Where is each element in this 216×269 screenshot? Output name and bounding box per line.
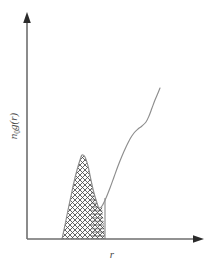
figure-root: n0g(r) r [0,0,216,269]
y-axis-arrowhead [23,12,31,23]
axes [23,12,204,243]
y-axis-label-tail: g(r) [7,112,20,129]
x-axis-label: r [110,248,115,260]
y-axis-label-group: n0g(r) [7,112,22,139]
y-axis-label: n0g(r) [7,112,22,139]
x-axis-arrowhead [193,235,204,243]
plot-canvas: n0g(r) r [0,0,216,269]
